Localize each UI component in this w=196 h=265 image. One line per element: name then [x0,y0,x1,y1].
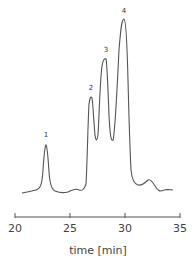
x-tick-label-20: 20 [8,222,22,235]
peak-label-4: 4 [122,7,126,15]
x-tick-label-35: 35 [173,222,187,235]
chromatogram-trace [22,19,173,193]
x-tick-label-25: 25 [63,222,77,235]
peak-label-2: 2 [89,84,93,92]
x-tick-label-30: 30 [118,222,132,235]
chromatogram-plot [0,0,196,265]
peak-label-1: 1 [44,131,48,139]
peak-label-3: 3 [104,46,108,54]
x-axis-label: time [min] [0,244,196,257]
